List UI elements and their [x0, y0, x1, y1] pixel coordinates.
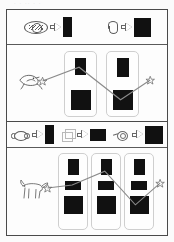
- black-wide-rect: [65, 181, 81, 190]
- black-tall-rect: [101, 159, 112, 175]
- panel-a-legend: [7, 10, 167, 45]
- star-marker: [146, 76, 154, 84]
- peanut-oval-sketch-icon: [11, 130, 30, 139]
- legend-item: [105, 18, 151, 37]
- card[interactable]: [64, 51, 97, 117]
- black-square: [64, 196, 83, 214]
- right-arrow-icon: [32, 130, 43, 139]
- panel-a: a: [7, 10, 167, 122]
- right-arrow-icon: [77, 130, 88, 139]
- card[interactable]: [124, 153, 154, 230]
- panel-a-plot: [7, 45, 167, 122]
- black-square: [97, 196, 116, 214]
- right-arrow-icon: [121, 23, 132, 32]
- right-arrow-icon: [50, 23, 61, 32]
- black-square: [130, 196, 149, 214]
- black-tall-rect: [134, 159, 145, 175]
- legend-item: [113, 126, 163, 144]
- card[interactable]: [106, 51, 139, 117]
- black-tall-rect: [63, 17, 72, 37]
- black-square: [145, 126, 163, 144]
- figure-page: · · ·· · · a: [0, 0, 174, 242]
- black-wide-rect: [131, 181, 147, 190]
- legend-item: [24, 17, 72, 37]
- star-marker: [156, 179, 164, 187]
- black-tall-rect: [75, 58, 86, 75]
- panel-b-legend: [7, 122, 167, 148]
- black-wide-rect: [90, 129, 106, 141]
- black-tall-rect: [68, 159, 79, 175]
- right-arrow-icon: [132, 130, 143, 139]
- scan-ghost-text: · · ·· · ·: [14, 0, 134, 8]
- figure-frame: a: [6, 9, 168, 236]
- cube-outline-sketch-icon: [61, 129, 75, 141]
- panel-b: b: [7, 122, 167, 235]
- dog-sketch-icon: [15, 176, 49, 202]
- black-square: [113, 90, 133, 110]
- ring-tail-sketch-icon: [113, 130, 130, 140]
- plate-noodles-sketch-icon: [24, 21, 48, 34]
- black-square: [71, 90, 91, 110]
- black-wide-rect: [98, 181, 114, 190]
- black-tall-rect: [45, 125, 54, 144]
- curved-worm-sketch-icon: [105, 20, 119, 34]
- legend-item: [61, 129, 106, 141]
- card[interactable]: [91, 153, 121, 230]
- bird-sketch-icon: [17, 71, 43, 91]
- panel-b-plot: [7, 148, 167, 235]
- black-tall-rect: [117, 58, 129, 77]
- legend-item: [11, 125, 54, 144]
- black-square: [134, 18, 151, 37]
- card[interactable]: [58, 153, 88, 230]
